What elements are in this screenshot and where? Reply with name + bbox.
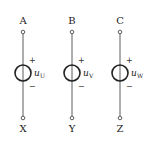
- terminal-label-bottom: Z: [117, 123, 124, 134]
- terminal-bottom: [70, 116, 74, 120]
- diagram: A + − u U X B + − u V Y C + − u W Z: [0, 0, 150, 143]
- terminal-label-top: A: [18, 15, 27, 26]
- voltage-sub: V: [88, 72, 94, 79]
- voltage-source-w: C + − u W Z: [112, 15, 144, 134]
- terminal-label-bottom: Y: [68, 123, 76, 134]
- terminal-top: [118, 30, 122, 34]
- plus-sign: +: [29, 56, 36, 65]
- voltage-sub: W: [137, 72, 144, 79]
- minus-sign: −: [78, 82, 85, 91]
- terminal-top: [21, 30, 25, 34]
- voltage-source-u: A + − u U X: [15, 15, 45, 134]
- plus-sign: +: [126, 56, 133, 65]
- terminal-label-top: C: [116, 15, 124, 26]
- terminal-bottom: [118, 116, 122, 120]
- minus-sign: −: [126, 82, 133, 91]
- terminal-label-bottom: X: [19, 123, 27, 134]
- terminal-label-top: B: [68, 15, 75, 26]
- terminal-bottom: [21, 116, 25, 120]
- voltage-sub: U: [40, 72, 45, 79]
- terminal-top: [70, 30, 74, 34]
- voltage-source-v: B + − u V Y: [64, 15, 94, 134]
- minus-sign: −: [29, 82, 36, 91]
- circuit-svg: A + − u U X B + − u V Y C + − u W Z: [0, 0, 150, 143]
- plus-sign: +: [78, 56, 85, 65]
